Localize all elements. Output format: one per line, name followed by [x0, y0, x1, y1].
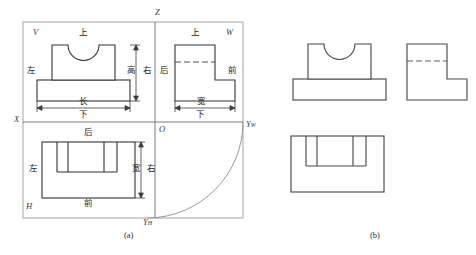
drawing-svg	[0, 0, 476, 255]
axis-label-x: X	[14, 115, 19, 124]
v-length-arrow-right	[125, 106, 130, 111]
caption-b: (b)	[370, 231, 380, 240]
h-view-object	[42, 142, 135, 198]
b-top-view-object	[291, 136, 384, 192]
v-view-dim-length: 长	[79, 97, 88, 106]
h-width-arrow-top	[139, 142, 144, 147]
axis-label-o: O	[159, 125, 165, 134]
b-front-view-object	[293, 44, 386, 100]
h-view-label-back: 后	[84, 128, 93, 137]
b-side-view-object	[407, 44, 467, 100]
h-view-label-right: 右	[147, 164, 156, 173]
h-view-label-front: 前	[84, 199, 93, 208]
h-view-outline	[42, 142, 135, 198]
plane-label-w: W	[226, 28, 233, 37]
b-front-base	[293, 79, 386, 100]
w-view-object	[175, 45, 235, 101]
w-width-arrow-left	[175, 106, 180, 111]
axis-label-yh-subscript: H	[148, 220, 152, 226]
v-view-label-left: 左	[27, 66, 36, 75]
plane-label-v: V	[33, 28, 38, 37]
w-view-label-front: 前	[228, 66, 237, 75]
rotation-arc	[148, 122, 243, 218]
v-view-label-down: 下	[79, 110, 88, 119]
b-side-profile	[407, 44, 467, 100]
w-view-label-back: 后	[160, 66, 169, 75]
w-view-profile	[175, 45, 235, 101]
h-width-arrow-bottom	[139, 193, 144, 198]
plane-label-h: H	[26, 202, 32, 211]
v-view-label-up: 上	[79, 28, 88, 37]
v-view-dim-height: 高	[127, 66, 136, 75]
v-view-object	[37, 45, 130, 101]
v-height-arrow-bottom	[134, 96, 139, 101]
w-view-dim-width: 宽	[197, 97, 206, 106]
h-view-label-left: 左	[29, 164, 38, 173]
w-width-arrow-right	[230, 106, 235, 111]
figure-canvas: Z X O YW YH V W H 上 下 左 右 长 高 上 下 后 前 宽 …	[0, 0, 476, 255]
w-view-label-down: 下	[196, 110, 205, 119]
axis-label-yw-subscript: W	[251, 122, 256, 128]
v-view-label-right: 右	[143, 66, 152, 75]
v-height-arrow-top	[134, 45, 139, 50]
h-view-dim-width: 宽	[132, 164, 141, 173]
w-view-label-up: 上	[191, 28, 200, 37]
b-top-outline	[291, 136, 384, 192]
axis-label-yw: YW	[246, 120, 256, 129]
axis-label-yh: YH	[143, 218, 152, 227]
v-length-arrow-left	[37, 106, 42, 111]
v-view-upright	[52, 45, 115, 80]
caption-a: (a)	[124, 231, 133, 240]
axis-label-z: Z	[155, 8, 160, 17]
b-front-upright	[308, 44, 371, 79]
